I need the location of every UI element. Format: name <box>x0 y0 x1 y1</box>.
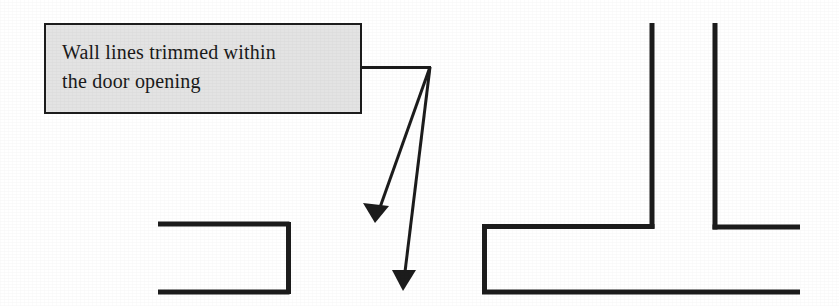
leader-arrowhead-left <box>363 203 389 223</box>
leader-arrowhead-right <box>392 270 416 291</box>
wall-trim-figure: Wall lines trimmed within the door openi… <box>0 0 839 306</box>
callout-text: Wall lines trimmed within the door openi… <box>62 38 360 96</box>
left-wall-door-opening <box>158 222 290 294</box>
leader-branch-right <box>404 67 430 280</box>
leader-lines <box>361 67 431 291</box>
right-wall-tee-opening <box>482 23 800 294</box>
callout-box: Wall lines trimmed within the door openi… <box>44 23 362 114</box>
